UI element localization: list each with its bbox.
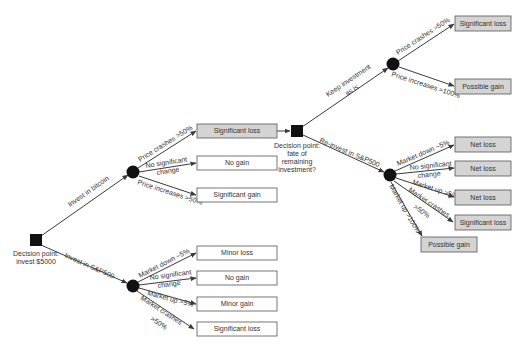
- svg-text:Net loss: Net loss: [470, 194, 496, 201]
- outcome-btc-significant-loss: Significant loss: [197, 124, 277, 138]
- outcome-re-net-loss-2: Net loss: [455, 161, 511, 176]
- outcome-btc-no-gain: No gain: [197, 156, 277, 170]
- svg-text:Significant loss: Significant loss: [214, 325, 261, 333]
- outcome-btc-significant-gain: Significant gain: [197, 188, 277, 202]
- decision-tree: Invest in bitcoin Invest in S&P500 Price…: [0, 0, 525, 356]
- outcome-sp-minor-gain: Minor gain: [197, 297, 277, 311]
- outcome-sp-no-gain: No gain: [197, 271, 277, 285]
- outcome-re-significant-loss: Significant loss: [455, 215, 511, 230]
- root-label-2: invest $5000: [16, 258, 56, 265]
- svg-text:No gain: No gain: [225, 159, 249, 167]
- label-invest-sp500: Invest in S&P500: [64, 252, 116, 280]
- svg-text:Minor gain: Minor gain: [221, 300, 254, 308]
- svg-text:Net loss: Net loss: [470, 165, 496, 172]
- second-decision-label-2: fate of: [287, 150, 307, 157]
- label-re-nochange-2: change: [417, 170, 441, 180]
- svg-text:No gain: No gain: [225, 274, 249, 282]
- label-sp-nochange-2: change: [157, 279, 181, 290]
- keep-chance-node: [387, 58, 400, 71]
- second-decision-label-1: Decision point:: [274, 142, 320, 150]
- outcome-keep-significant-loss: Significant loss: [455, 16, 511, 31]
- reinvest-chance-node: [384, 169, 397, 182]
- svg-text:Significant gain: Significant gain: [213, 191, 261, 199]
- svg-text:Net loss: Net loss: [470, 141, 496, 148]
- second-decision-label-3: remaining: [282, 158, 313, 166]
- root-label-1: Decision point:: [13, 250, 59, 258]
- outcome-sp-significant-loss: Significant loss: [197, 322, 277, 336]
- svg-text:Minor loss: Minor loss: [221, 249, 253, 256]
- svg-text:Significant loss: Significant loss: [460, 219, 507, 227]
- bitcoin-chance-node: [127, 166, 140, 179]
- svg-text:Significant loss: Significant loss: [214, 127, 261, 135]
- edge-invest-bitcoin: [41, 175, 128, 236]
- label-keep-crash: Price crashes >50%: [395, 16, 451, 56]
- outcome-re-net-loss-1: Net loss: [455, 137, 511, 152]
- label-btc-increase: Price increases >50%: [137, 178, 204, 206]
- second-decision-node: [291, 125, 303, 137]
- svg-text:Possible gain: Possible gain: [428, 241, 470, 249]
- label-btc-nochange-2: change: [156, 165, 180, 177]
- svg-text:Significant loss: Significant loss: [460, 20, 507, 28]
- outcome-keep-possible-gain: Possible gain: [455, 79, 511, 94]
- outcome-sp-minor-loss: Minor loss: [197, 246, 277, 260]
- root-decision-node: [30, 234, 42, 246]
- sp500-chance-node: [127, 280, 140, 293]
- svg-text:Possible gain: Possible gain: [462, 83, 504, 91]
- outcome-re-net-loss-3: Net loss: [455, 190, 511, 205]
- second-decision-label-4: investment?: [278, 166, 316, 173]
- outcome-re-possible-gain: Possible gain: [421, 237, 477, 252]
- label-reinvest: Re-invest in S&P500: [319, 136, 381, 168]
- edge-keep: [302, 68, 388, 127]
- label-sp-crash-2: >50%: [149, 315, 168, 331]
